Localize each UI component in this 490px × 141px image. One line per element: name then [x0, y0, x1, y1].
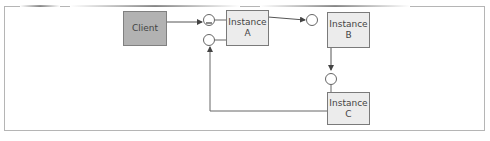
node-instance-a: Instance A	[226, 10, 269, 46]
edge-a-to-b	[268, 17, 305, 20]
interface-circle-b	[307, 15, 318, 26]
node-label: Instance	[329, 19, 367, 30]
node-instance-b: Instance B	[327, 12, 370, 48]
interface-circle-c	[326, 74, 337, 85]
node-label: C	[345, 109, 351, 120]
node-label: B	[345, 30, 351, 41]
interface-circle-a-in	[204, 15, 215, 26]
node-label: A	[244, 28, 250, 39]
edge-c-to-a	[210, 47, 327, 111]
interface-circle-a-return	[204, 35, 215, 46]
node-instance-c: Instance C	[327, 92, 370, 125]
node-label: Instance	[329, 98, 367, 109]
node-client: Client	[123, 11, 167, 46]
node-label: Instance	[228, 17, 266, 28]
node-label: Client	[132, 23, 158, 34]
